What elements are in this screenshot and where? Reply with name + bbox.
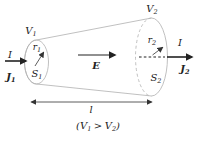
label-current-in: I xyxy=(7,49,13,60)
label-current-out: I xyxy=(177,37,183,48)
label-condition: (V1>V2) xyxy=(76,120,120,133)
label-s2: S2 xyxy=(151,72,162,85)
label-j2: J2 xyxy=(178,63,190,76)
label-j1: J1 xyxy=(4,71,15,84)
label-r1: r1 xyxy=(33,42,41,54)
radius-r1-arrow xyxy=(35,53,44,67)
label-e-field: E xyxy=(91,60,100,71)
label-v1: V1 xyxy=(25,25,36,38)
label-length: l xyxy=(89,104,92,115)
label-s1: S1 xyxy=(32,68,43,81)
label-v2: V2 xyxy=(146,3,157,16)
conductor-diagram: V1 V2 I J1 r1 S1 E r2 I J2 S2 l (V1>V2) xyxy=(0,0,198,141)
radius-r2-arrow xyxy=(153,48,163,56)
label-r2: r2 xyxy=(148,35,156,47)
diagram-canvas: V1 V2 I J1 r1 S1 E r2 I J2 S2 l (V1>V2) xyxy=(0,0,198,141)
